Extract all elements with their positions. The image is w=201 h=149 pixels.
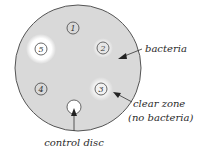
disc-5: 5 xyxy=(35,43,47,55)
disc-2-label: 2 xyxy=(99,44,105,53)
no-bacteria-label: (no bacteria) xyxy=(128,112,193,123)
disc-5-label: 5 xyxy=(38,45,43,54)
clear-zone-label: clear zone xyxy=(133,98,185,109)
disc-3-label: 3 xyxy=(98,85,103,94)
disc-4: 4 xyxy=(35,83,47,95)
diagram-canvas: 1 2 3 4 5 bacteria clear zone (no bacter… xyxy=(0,0,201,149)
disc-1: 1 xyxy=(67,22,79,34)
bacteria-label: bacteria xyxy=(145,43,187,54)
disc-2: 2 xyxy=(97,42,109,54)
disc-4-label: 4 xyxy=(37,85,43,94)
control-disc-label: control disc xyxy=(44,137,104,148)
disc-3: 3 xyxy=(95,83,107,95)
disc-1-label: 1 xyxy=(70,24,75,33)
